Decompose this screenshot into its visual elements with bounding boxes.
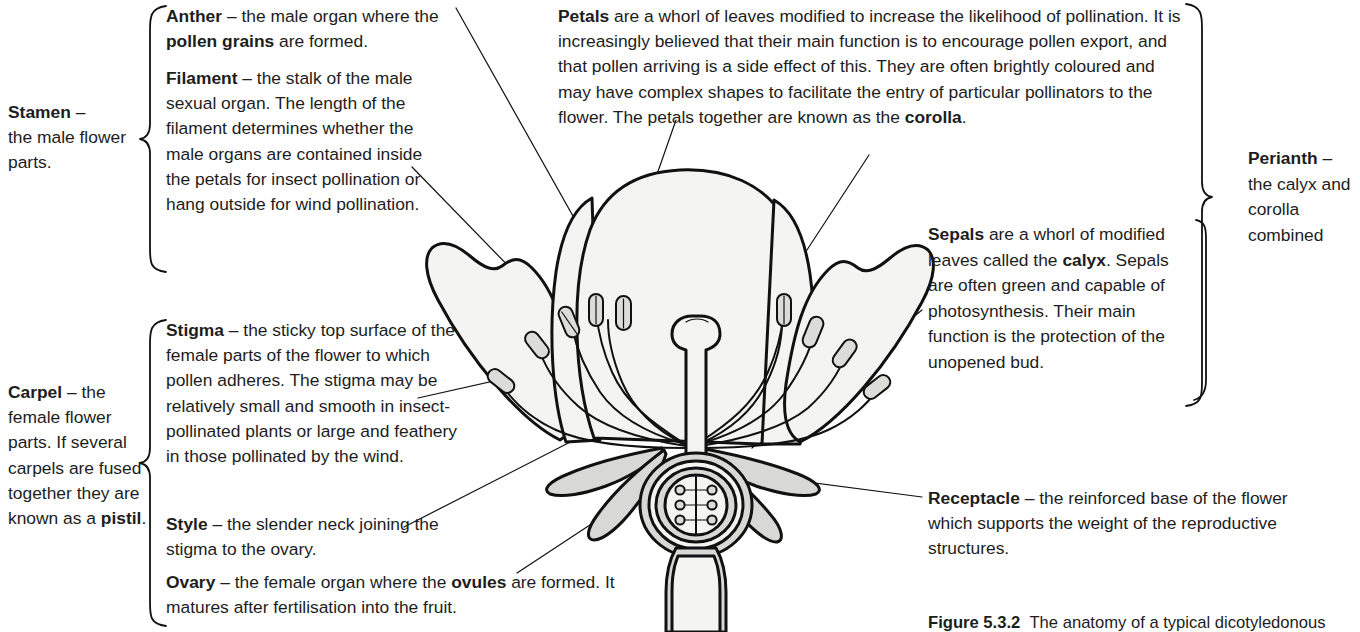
- pedicel: [672, 556, 720, 632]
- stigma-term: Stigma: [166, 320, 224, 340]
- ovary-description: the female organ where the: [235, 572, 452, 592]
- stigma-description: the sticky top surface of the female par…: [166, 320, 457, 466]
- petal-left-inner: [552, 198, 600, 442]
- receptacle: [666, 548, 726, 632]
- perianth-term: Perianth: [1248, 148, 1318, 168]
- ovary: [640, 453, 752, 557]
- perianth-group-label: Perianth – the calyx and corolla combine…: [1248, 146, 1356, 248]
- filament-dash: –: [238, 68, 257, 88]
- sepal-far-left: [547, 448, 662, 496]
- anther: [485, 366, 517, 396]
- anther-description: the male organ where the: [241, 6, 438, 26]
- anther-description-tail: are formed.: [274, 31, 368, 51]
- anther: [777, 294, 791, 326]
- carpel-description: the female flower parts. If several carp…: [8, 382, 141, 528]
- style: [672, 316, 720, 492]
- calyx-sepals: [547, 448, 820, 542]
- petal-centre: [577, 170, 802, 444]
- stigma-dash: –: [224, 320, 243, 340]
- sepal-far-right: [700, 448, 819, 496]
- ovary-dash: –: [215, 572, 234, 592]
- figure-caption-text: The anatomy of a typical dicotyledonous: [1029, 613, 1325, 632]
- figure-caption: Figure 5.3.2 The anatomy of a typical di…: [928, 612, 1358, 632]
- petals-description: are a whorl of leaves modified to increa…: [558, 6, 1181, 127]
- filament-note: Filament – the stalk of the male sexual …: [166, 66, 424, 217]
- stamen-dash: –: [71, 102, 86, 122]
- ovary-term: Ovary: [166, 572, 215, 592]
- pistil-term: pistil: [101, 508, 142, 528]
- sepal-left: [588, 450, 666, 540]
- stamen-term: Stamen: [8, 102, 71, 122]
- anther-note: Anther – the male organ where the pollen…: [166, 4, 466, 54]
- filament-description: the stalk of the male sexual organ. The …: [166, 68, 422, 214]
- stamen-group-label: Stamen – the male flower parts.: [8, 100, 148, 176]
- carpel-description-tail: .: [141, 508, 146, 528]
- anther: [557, 305, 582, 340]
- anther-term: Anther: [166, 6, 222, 26]
- anther: [616, 296, 631, 330]
- figure-number: Figure 5.3.2: [928, 613, 1020, 632]
- ovary-note: Ovary – the female organ where the ovule…: [166, 570, 626, 620]
- corolla-term: corolla: [905, 107, 962, 127]
- filament-term: Filament: [166, 68, 238, 88]
- style-term: Style: [166, 514, 208, 534]
- pollen-grains-term: pollen grains: [166, 31, 274, 51]
- stamen-description: the male flower parts.: [8, 127, 126, 172]
- petals-term: Petals: [558, 6, 609, 26]
- petal-right-inner: [762, 200, 814, 444]
- carpel-term: Carpel: [8, 382, 62, 402]
- carpel-group-label: Carpel – the female flower parts. If sev…: [8, 380, 153, 531]
- petals-description-tail: .: [962, 107, 967, 127]
- ovary-locule: [665, 475, 727, 535]
- anther: [830, 337, 860, 370]
- gynoecium-pistil: [640, 316, 752, 557]
- petals-note: Petals are a whorl of leaves modified to…: [558, 4, 1186, 130]
- carpel-dash: –: [62, 382, 81, 402]
- ovules-term: ovules: [451, 572, 506, 592]
- figure-canvas: .ink{fill:none;stroke:#111;stroke-width:…: [0, 0, 1360, 632]
- style-dash: –: [208, 514, 227, 534]
- perianth-description: the calyx and corolla combined: [1248, 174, 1350, 245]
- receptacle-and-pedicel: [666, 548, 726, 632]
- receptacle-dash: –: [1020, 488, 1039, 508]
- receptacle-note: Receptacle – the reinforced base of the …: [928, 486, 1308, 562]
- corolla-petals: [427, 170, 934, 444]
- petal-right-outer: [785, 245, 934, 442]
- anther: [589, 294, 603, 326]
- sepals-note: Sepals are a whorl of modified leaves ca…: [928, 222, 1198, 376]
- calyx-term: calyx: [1062, 250, 1106, 270]
- sepal-right: [698, 450, 781, 542]
- anther: [861, 372, 893, 402]
- style-note: Style – the slender neck joining the sti…: [166, 512, 466, 562]
- perianth-dash: –: [1318, 148, 1333, 168]
- anther: [522, 329, 552, 361]
- androecium-stamens: [485, 294, 893, 448]
- receptacle-term: Receptacle: [928, 488, 1020, 508]
- sepals-term: Sepals: [928, 224, 984, 244]
- anther-dash: –: [222, 6, 241, 26]
- stigma-note: Stigma – the sticky top surface of the f…: [166, 318, 466, 469]
- ovule: [675, 485, 716, 524]
- anther: [801, 315, 826, 350]
